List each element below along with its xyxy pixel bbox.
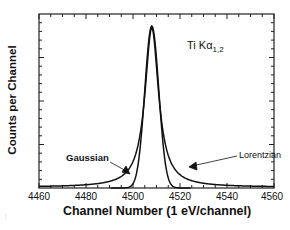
- lorentzian-arrowhead: [189, 162, 197, 170]
- line-annotation: Ti Kα1,2: [187, 39, 224, 54]
- x-tick-4460: 4460: [28, 191, 50, 202]
- lorentzian-arrow: [192, 156, 237, 166]
- x-tick-4560: 4560: [261, 191, 283, 202]
- cropped-edge-text: …: [1, 150, 9, 220]
- x-tick-4520: 4520: [169, 191, 191, 202]
- gaussian-label: Gaussian: [66, 152, 109, 163]
- x-tick-4540: 4540: [216, 191, 238, 202]
- x-tick-4500: 4500: [122, 191, 144, 202]
- lorentzian-label: Lorentzian: [239, 150, 281, 160]
- spectrum-chart: … Counts per Channel Channel Number (1 e…: [0, 0, 290, 230]
- x-axis-label: Channel Number (1 eV/channel): [63, 204, 251, 218]
- line-annotation-main: Ti Kα: [187, 39, 213, 51]
- x-tick-4480: 4480: [75, 191, 97, 202]
- line-annotation-subscript: 1,2: [213, 45, 224, 54]
- y-axis-label: Counts per Channel: [6, 45, 18, 154]
- gaussian-curve: [111, 26, 191, 188]
